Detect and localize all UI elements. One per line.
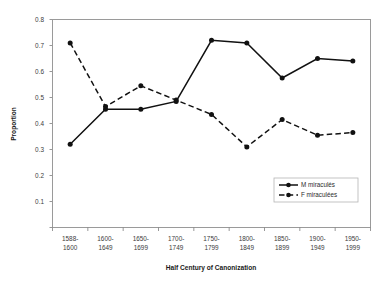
y-tick-label: 0.8	[35, 16, 44, 23]
data-point-marker	[138, 83, 143, 88]
y-tick-label: 0.5	[35, 94, 44, 101]
data-point-marker	[315, 133, 320, 138]
y-tick-label: 0.2	[35, 172, 44, 179]
data-point-marker	[68, 40, 73, 45]
x-tick-label-line: 1850-	[274, 235, 290, 242]
y-tick-label: 0.4	[35, 120, 44, 127]
x-tick-label-line: 1800-	[239, 235, 255, 242]
data-point-marker	[315, 56, 320, 61]
y-tick-label: 0.3	[35, 146, 44, 153]
y-tick-label: 0.1	[35, 198, 44, 205]
data-point-marker	[103, 104, 108, 109]
y-tick-label: 0.7	[35, 42, 44, 49]
x-tick-label-line: 1999	[346, 244, 361, 251]
x-tick-label-line: 1949	[310, 244, 325, 251]
data-point-marker	[280, 76, 285, 81]
data-point-marker	[244, 40, 249, 45]
data-point-marker	[350, 59, 355, 64]
x-tick-label-line: 1900-	[309, 235, 325, 242]
legend-marker-swatch	[286, 193, 291, 198]
x-tick-label-line: 1750-	[203, 235, 219, 242]
x-tick-label-line: 1899	[275, 244, 290, 251]
legend-marker-swatch	[286, 183, 291, 188]
x-tick-label-line: 1699	[134, 244, 149, 251]
line-chart: 0.10.20.30.40.50.60.70.8 1588-16001600-1…	[0, 0, 387, 282]
x-tick-label-line: 1749	[169, 244, 184, 251]
x-tick-label-line: 1588-	[62, 235, 78, 242]
y-axis-title: Proportion	[10, 107, 18, 141]
x-tick-label-line: 1950-	[345, 235, 361, 242]
x-axis-title: Half Century of Canonization	[166, 264, 256, 272]
x-tick-label-line: 1649	[98, 244, 113, 251]
data-point-marker	[350, 130, 355, 135]
data-point-marker	[280, 117, 285, 122]
legend-item-label: M miraculés	[301, 181, 335, 188]
legend-item-label: F miraculées	[301, 191, 337, 198]
data-point-marker	[209, 38, 214, 43]
x-tick-label-line: 1799	[204, 244, 219, 251]
x-tick-label-line: 1650-	[133, 235, 149, 242]
data-point-marker	[244, 144, 249, 149]
data-point-marker	[138, 107, 143, 112]
y-tick-label: 0.6	[35, 68, 44, 75]
data-point-marker	[174, 98, 179, 103]
chart-canvas: 0.10.20.30.40.50.60.70.8 1588-16001600-1…	[0, 0, 387, 282]
data-point-marker	[209, 112, 214, 117]
data-point-marker	[68, 142, 73, 147]
chart-legend[interactable]: M miraculésF miraculées	[274, 178, 358, 202]
x-tick-label-line: 1600	[63, 244, 78, 251]
x-tick-label-line: 1849	[240, 244, 255, 251]
x-tick-label-line: 1600-	[97, 235, 113, 242]
x-tick-label-line: 1700-	[168, 235, 184, 242]
chart-background	[0, 0, 387, 282]
